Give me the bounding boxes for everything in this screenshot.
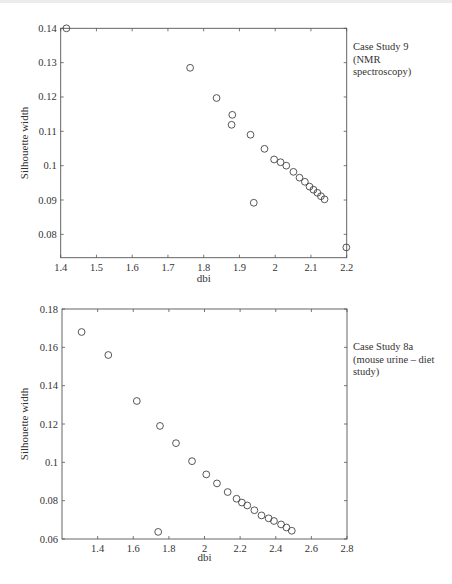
data-point-marker (133, 398, 140, 405)
data-point-marker (214, 480, 221, 487)
data-point-marker (288, 527, 295, 534)
data-point-marker (244, 502, 251, 509)
x-tick-label: 2.2 (340, 262, 353, 273)
data-point-marker (258, 512, 265, 519)
data-point-marker (247, 131, 254, 138)
data-point-marker (250, 199, 257, 206)
plot-frame (61, 28, 347, 257)
y-tick-label: 0.14 (38, 23, 57, 34)
bottom-chart-annotation: Case Study 8a (mouse urine – diet study) (353, 341, 434, 379)
y-tick-label: 0.13 (38, 57, 56, 68)
bottom-scatter-chart: 1.41.61.822.22.42.62.80.060.080.10.120.1… (18, 304, 354, 564)
y-tick-label: 0.1 (45, 457, 58, 468)
data-point-marker (213, 95, 220, 102)
y-tick-label: 0.08 (38, 229, 56, 240)
data-point-marker (228, 121, 235, 128)
y-tick-label: 0.18 (40, 304, 58, 315)
x-axis-title: dbi (197, 272, 211, 284)
x-tick-label: 1.8 (162, 543, 175, 554)
x-tick-label: 2.2 (234, 543, 247, 554)
data-point-marker (251, 507, 258, 514)
data-point-marker (224, 489, 231, 496)
top-scatter-chart: 1.41.51.61.71.81.922.12.20.080.090.10.11… (18, 23, 353, 284)
data-point-marker (187, 64, 194, 71)
y-tick-label: 0.16 (40, 342, 58, 353)
y-axis-title: Silhouette width (18, 387, 30, 460)
y-tick-label: 0.09 (38, 195, 56, 206)
x-tick-label: 1.7 (161, 262, 174, 273)
top-chart-annotation: Case Study 9 (NMR spectroscopy) (353, 41, 411, 79)
x-tick-label: 2.4 (269, 543, 283, 554)
y-tick-label: 0.06 (40, 534, 58, 545)
x-tick-label: 1.4 (54, 262, 68, 273)
data-point-marker (105, 352, 112, 359)
data-point-marker (271, 156, 278, 163)
x-tick-label: 2 (273, 262, 278, 273)
y-tick-label: 0.12 (38, 91, 56, 102)
x-tick-label: 1.5 (90, 262, 103, 273)
y-axis-title: Silhouette width (18, 106, 30, 179)
x-tick-label: 1.4 (91, 543, 105, 554)
y-tick-label: 0.08 (40, 495, 58, 506)
plot-frame (62, 309, 347, 539)
data-point-marker (290, 168, 297, 175)
charts-canvas: 1.41.51.61.71.81.922.12.20.080.090.10.11… (0, 0, 452, 584)
data-point-marker (78, 329, 85, 336)
data-point-marker (229, 111, 236, 118)
data-point-marker (261, 145, 268, 152)
data-point-marker (157, 423, 164, 430)
x-tick-label: 2.1 (304, 262, 317, 273)
x-tick-label: 2.8 (340, 543, 353, 554)
x-axis-title: dbi (197, 551, 211, 563)
y-tick-label: 0.11 (39, 126, 57, 137)
x-tick-label: 1.6 (127, 543, 140, 554)
y-tick-label: 0.14 (40, 380, 59, 391)
y-tick-label: 0.12 (40, 419, 58, 430)
y-tick-label: 0.1 (44, 160, 57, 171)
data-point-marker (203, 471, 210, 478)
x-tick-label: 2.6 (305, 543, 318, 554)
data-point-marker (189, 458, 196, 465)
x-tick-label: 1.6 (126, 262, 139, 273)
data-point-marker (283, 162, 290, 169)
data-point-marker (173, 440, 180, 447)
data-point-marker (155, 529, 162, 536)
data-point-marker (271, 518, 278, 525)
x-tick-label: 1.9 (233, 262, 246, 273)
